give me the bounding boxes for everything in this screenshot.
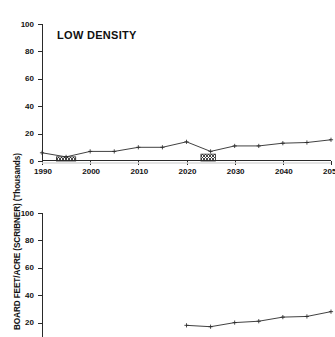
x-tick-label: 2050 — [323, 167, 335, 176]
figure: BOARD FEET/ACRE (SCRIBNER) (Thousands) L… — [0, 0, 335, 337]
y-tick-label: 60 — [25, 263, 34, 272]
y-tick-label: 100 — [21, 20, 34, 29]
data-point-marker — [281, 315, 285, 319]
series-line-high-density — [42, 213, 331, 337]
data-point-marker — [208, 149, 212, 153]
y-tick-label: 0 — [30, 157, 34, 166]
y-tick-label: 40 — [25, 291, 34, 300]
data-point-marker — [233, 144, 237, 148]
data-point-marker — [136, 145, 140, 149]
y-tick-label: 20 — [25, 318, 34, 327]
data-point-marker — [184, 323, 188, 327]
y-tick-label: 100 — [21, 209, 34, 218]
data-point-marker — [305, 314, 309, 318]
y-tick-label: 80 — [25, 47, 34, 56]
scan-artifact-low — [42, 162, 331, 164]
data-point-marker — [112, 149, 116, 153]
data-point-marker — [257, 319, 261, 323]
y-tick-label: 20 — [25, 129, 34, 138]
series-line-low-density — [42, 24, 331, 161]
x-tick: 2050 — [331, 161, 332, 165]
data-point-marker — [281, 141, 285, 145]
x-tick-label: 2040 — [275, 167, 293, 176]
x-tick-label: 1990 — [34, 167, 52, 176]
data-point-marker — [184, 140, 188, 144]
y-tick-label: 80 — [25, 236, 34, 245]
data-point-marker — [88, 149, 92, 153]
data-point-marker — [160, 145, 164, 149]
data-point-marker — [305, 140, 309, 144]
plot-area-low-density: 020406080100 199020002010202020302040205… — [42, 24, 331, 161]
harvest-block-2024 — [201, 154, 215, 161]
x-tick-label: 2020 — [179, 167, 197, 176]
y-tick-label: 40 — [25, 102, 34, 111]
data-point-marker — [257, 144, 261, 148]
x-tick-label: 2030 — [227, 167, 245, 176]
plot-area-high-density: 020406080100 — [42, 213, 331, 337]
data-point-marker — [233, 321, 237, 325]
y-tick-label: 60 — [25, 74, 34, 83]
x-tick-label: 2010 — [130, 167, 148, 176]
data-point-marker — [208, 325, 212, 329]
x-tick-label: 2000 — [82, 167, 100, 176]
